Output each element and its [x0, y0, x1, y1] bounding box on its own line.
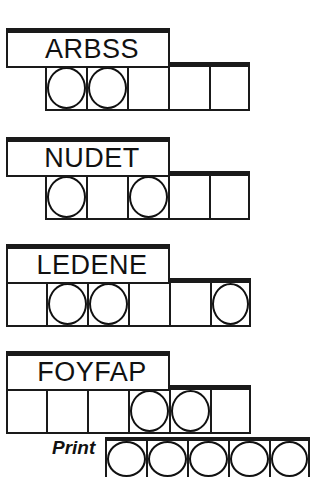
answer-cell[interactable]	[209, 176, 250, 220]
answer-cell[interactable]	[146, 441, 187, 477]
circle-marker-icon	[129, 176, 168, 218]
answer-cell[interactable]	[210, 390, 251, 434]
answer-cell[interactable]	[87, 390, 128, 434]
answer-cell[interactable]	[128, 283, 169, 327]
answer-cell[interactable]	[128, 390, 169, 434]
puzzle-row-1: ARBSS	[0, 0, 265, 110]
answer-grid-3	[6, 278, 251, 322]
answer-cell[interactable]	[210, 283, 251, 327]
answer-cell[interactable]	[45, 67, 86, 111]
circle-marker-icon	[189, 441, 228, 477]
answer-grid-1	[45, 62, 250, 106]
word-box-1: ARBSS	[6, 28, 170, 68]
answer-cell[interactable]	[6, 283, 46, 327]
answer-cell[interactable]	[86, 176, 127, 220]
answer-cell[interactable]	[168, 176, 209, 220]
print-row: Print	[0, 432, 265, 472]
puzzle-row-4: FOYFAP	[0, 332, 265, 438]
answer-cell[interactable]	[209, 67, 250, 111]
answer-grid-4	[6, 385, 251, 429]
scrambled-word-3: LEDENE	[22, 252, 153, 279]
answer-cell[interactable]	[127, 67, 168, 111]
circle-marker-icon	[89, 283, 128, 325]
answer-cell[interactable]	[187, 441, 228, 477]
answer-cell[interactable]	[228, 441, 269, 477]
answer-cell[interactable]	[168, 67, 209, 111]
answer-cell[interactable]	[45, 176, 86, 220]
circle-marker-icon	[212, 283, 249, 325]
answer-cell[interactable]	[169, 390, 210, 434]
print-answer-grid	[105, 437, 310, 473]
answer-cell[interactable]	[105, 441, 146, 477]
circle-marker-icon	[47, 176, 86, 218]
scrambled-word-2: NUDET	[30, 145, 146, 172]
answer-cell[interactable]	[46, 283, 87, 327]
answer-cell[interactable]	[169, 283, 210, 327]
circle-marker-icon	[271, 441, 308, 477]
answer-grid-2	[45, 171, 250, 215]
circle-marker-icon	[230, 441, 269, 477]
circle-marker-icon	[171, 390, 210, 432]
circle-marker-icon	[130, 390, 169, 432]
scrambled-word-4: FOYFAP	[23, 359, 153, 386]
scrambled-word-1: ARBSS	[31, 36, 145, 63]
puzzle-row-2: NUDET	[0, 110, 265, 222]
answer-cell[interactable]	[269, 441, 310, 477]
circle-marker-icon	[47, 67, 86, 109]
circle-marker-icon	[107, 441, 146, 477]
answer-cell[interactable]	[86, 67, 127, 111]
circle-marker-icon	[88, 67, 127, 109]
answer-cell[interactable]	[6, 390, 46, 434]
print-label: Print	[52, 438, 95, 457]
puzzle-row-3: LEDENE	[0, 222, 265, 332]
word-box-4: FOYFAP	[6, 351, 170, 391]
circle-marker-icon	[48, 283, 87, 325]
circle-marker-icon	[148, 441, 187, 477]
word-box-2: NUDET	[6, 137, 170, 177]
answer-cell[interactable]	[127, 176, 168, 220]
answer-cell[interactable]	[87, 283, 128, 327]
word-box-3: LEDENE	[6, 244, 170, 284]
answer-cell[interactable]	[46, 390, 87, 434]
